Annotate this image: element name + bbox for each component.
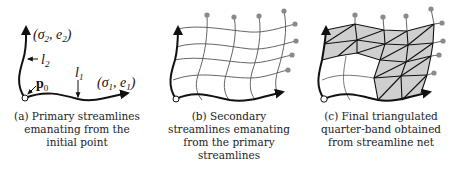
caption-c-line: (c) Final triangulated bbox=[306, 110, 456, 123]
label-l2: l2 bbox=[41, 52, 50, 69]
primary-streamline-1 bbox=[25, 93, 128, 100]
label-sigma2-e2: (σ2, e2) bbox=[33, 27, 72, 44]
caption-c: (c) Final triangulated quarter-band obta… bbox=[306, 110, 456, 149]
primary-streamline-2 bbox=[318, 27, 326, 99]
secondary-streamline-h2 bbox=[176, 41, 296, 49]
panel-a: (σ2, e2) l2 l1 p0 (σ1, e1) bbox=[19, 27, 136, 101]
caption-b-line: streamlines emanating bbox=[154, 123, 304, 136]
figure-panels: (σ2, e2) l2 l1 p0 (σ1, e1) bbox=[0, 0, 458, 110]
caption-a-line: emanating from the bbox=[2, 123, 152, 136]
caption-b: (b) Secondary streamlines emanating from… bbox=[154, 110, 304, 162]
secondary-streamline-h1 bbox=[177, 24, 295, 32]
secondary-streamline-h3 bbox=[174, 55, 292, 63]
initial-point-icon bbox=[173, 96, 179, 102]
caption-b-line: from the primary bbox=[154, 136, 304, 149]
primary-streamline-2 bbox=[170, 27, 178, 99]
label-sigma1-e1: (σ1, e1) bbox=[97, 75, 136, 92]
secondary-streamline-v4 bbox=[276, 11, 286, 95]
caption-b-line: streamlines bbox=[154, 149, 304, 162]
initial-point-icon bbox=[22, 95, 28, 101]
panel-c bbox=[318, 6, 445, 102]
caption-a-line: (a) Primary streamlines bbox=[2, 110, 152, 123]
primary-streamline-2 bbox=[19, 27, 26, 98]
initial-point-icon bbox=[321, 96, 327, 102]
caption-c-line: from streamline net bbox=[306, 136, 456, 149]
caption-c-line: quarter-band obtained bbox=[306, 123, 456, 136]
label-l1: l1 bbox=[75, 65, 83, 82]
caption-b-line: (b) Secondary bbox=[154, 110, 304, 123]
caption-a: (a) Primary streamlines emanating from t… bbox=[2, 110, 152, 149]
label-p0: p0 bbox=[36, 76, 49, 93]
secondary-streamline-h4 bbox=[173, 70, 288, 80]
secondary-streamline-v3 bbox=[250, 16, 260, 98]
primary-streamline-1 bbox=[176, 92, 283, 101]
caption-a-line: initial point bbox=[2, 136, 152, 149]
p0-arrow-icon bbox=[28, 86, 36, 94]
panel-b bbox=[170, 8, 298, 102]
